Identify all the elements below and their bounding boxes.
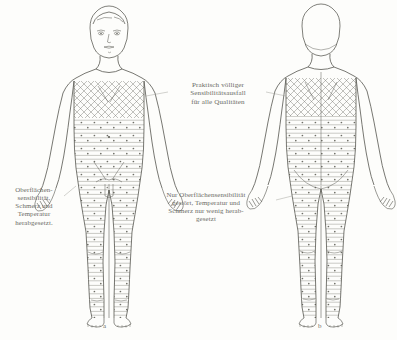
leader-total-right [266, 92, 286, 96]
label-center-zone: Nur Oberflächensensibilität gestört, Tem… [134, 191, 278, 224]
figure-anterior [35, 6, 183, 328]
figure-posterior [247, 4, 395, 328]
zone-hatched-dotted-back [272, 116, 372, 323]
head-front [90, 6, 128, 58]
label-left-zone: Oberflächen- sensibilität, Schmerz und T… [1, 186, 67, 227]
leader-total-left [146, 92, 168, 96]
sensory-loss-plate [0, 0, 397, 340]
hand-right-back [374, 186, 395, 209]
caption-figure-b: b [318, 322, 322, 330]
face-front [97, 30, 121, 53]
feet-front [87, 318, 131, 328]
head-back [302, 4, 340, 56]
leader-center-zone [276, 196, 292, 200]
caption-figure-a: a [103, 322, 106, 330]
label-total-sensory-loss: Praktisch völliger Sensibilitätsausfall … [170, 81, 266, 106]
